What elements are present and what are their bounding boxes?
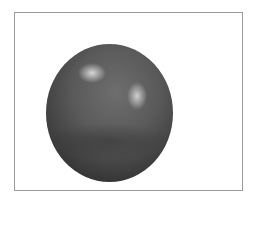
sphere-shading [46,44,173,182]
